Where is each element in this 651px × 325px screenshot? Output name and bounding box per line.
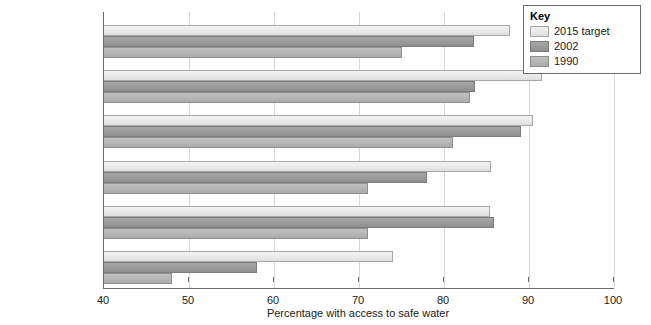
bar xyxy=(104,92,470,103)
bar xyxy=(104,161,491,172)
x-axis-tick xyxy=(273,277,274,282)
bar xyxy=(104,172,427,183)
bar xyxy=(104,126,521,137)
x-axis-tick xyxy=(528,277,529,282)
x-axis-tick-label: 60 xyxy=(267,294,279,306)
bar xyxy=(104,81,475,92)
legend-label-2002: 2002 xyxy=(554,40,578,52)
bar xyxy=(104,25,510,36)
x-axis-tick-label: 100 xyxy=(604,294,622,306)
legend-swatch-1990-icon xyxy=(530,56,549,67)
x-axis-tick-label: 40 xyxy=(97,294,109,306)
bar-chart: Percentage with access to safe water Key… xyxy=(0,0,651,325)
chart-legend: Key 2015 target 2002 1990 xyxy=(523,5,641,74)
bar xyxy=(104,115,533,126)
bar-group xyxy=(104,161,614,194)
legend-title: Key xyxy=(530,10,634,22)
x-axis-title: Percentage with access to safe water xyxy=(103,307,613,319)
bar xyxy=(104,228,368,239)
bar-group xyxy=(104,206,614,239)
legend-swatch-2015-target-icon xyxy=(530,26,549,37)
bar xyxy=(104,262,257,273)
bar xyxy=(104,273,172,284)
bar xyxy=(104,137,453,148)
x-axis-tick xyxy=(613,277,614,282)
x-axis-tick-label: 70 xyxy=(352,294,364,306)
x-axis-tick-label: 90 xyxy=(522,294,534,306)
x-axis-tick xyxy=(103,277,104,282)
bar xyxy=(104,251,393,262)
bar xyxy=(104,217,494,228)
bar-group xyxy=(104,115,614,148)
bar xyxy=(104,183,368,194)
bar-group xyxy=(104,251,614,284)
x-axis-tick-label: 50 xyxy=(182,294,194,306)
bar xyxy=(104,70,542,81)
x-axis-tick-label: 80 xyxy=(437,294,449,306)
x-axis-tick xyxy=(358,277,359,282)
legend-label-2015-target: 2015 target xyxy=(554,25,610,37)
legend-item-2015-target: 2015 target xyxy=(530,25,634,37)
x-axis-tick xyxy=(443,277,444,282)
legend-swatch-2002-icon xyxy=(530,41,549,52)
legend-item-2002: 2002 xyxy=(530,40,634,52)
legend-item-1990: 1990 xyxy=(530,55,634,67)
bar xyxy=(104,36,474,47)
bar-group xyxy=(104,70,614,103)
x-axis-tick xyxy=(188,277,189,282)
legend-label-1990: 1990 xyxy=(554,55,578,67)
bar xyxy=(104,206,490,217)
bar xyxy=(104,47,402,58)
